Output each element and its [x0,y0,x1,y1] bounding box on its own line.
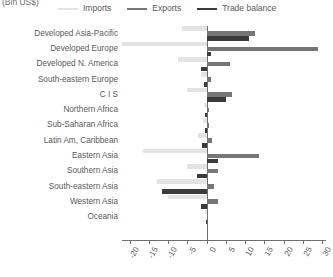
chart-legend: ImportsExportsTrade balance [58,4,276,13]
bar-exports [207,169,219,174]
category-label: South-eastern Europe [38,75,118,84]
bar-group [122,195,326,209]
legend-item-exports[interactable]: Exports [127,4,181,13]
legend-item-imports[interactable]: Imports [58,4,111,13]
bar-trade-balance [205,128,207,133]
value-axis: -20-15-10-5051015202530 [122,240,326,277]
bar-imports [187,164,206,169]
legend-label-trade-balance: Trade balance [222,4,276,13]
bar-imports [187,88,206,93]
category-label: Northern Africa [63,105,118,114]
axis-tick-label: -5 [188,246,198,256]
bar-group [122,103,326,117]
bar-group [122,88,326,102]
axis-tick [284,240,285,244]
category-label: Oceania [88,212,119,221]
bar-trade-balance [205,113,207,118]
bars-region [122,26,326,240]
bar-exports [207,199,219,204]
bar-imports [178,57,207,62]
bar-exports [207,92,232,97]
axis-tick-label: -15 [147,246,160,260]
category-label: South-eastern Asia [49,182,118,191]
bar-imports [203,118,207,123]
bar-trade-balance [201,204,207,209]
legend-swatch-exports [127,8,147,10]
bar-group [122,149,326,163]
bar-exports [207,62,230,67]
axis-tick-label: 25 [302,246,313,258]
bar-exports [207,31,255,36]
axis-line [122,240,326,241]
category-label: Western Asia [70,197,118,206]
bar-exports [207,77,212,82]
axis-tick [303,240,304,244]
axis-tick [245,240,246,244]
axis-tick-label: 20 [283,246,294,258]
bar-trade-balance [162,189,206,194]
category-label: C I S [100,90,118,99]
category-label: Sub-Saharan Africa [47,120,118,129]
category-label: Eastern Asia [72,151,118,160]
axis-tick-label: 30 [322,246,333,258]
bar-trade-balance [204,82,206,87]
legend-label-exports: Exports [152,4,181,13]
bar-exports [207,108,209,113]
bar-trade-balance [207,97,226,102]
bar-group [122,118,326,132]
bar-group [122,210,326,224]
axis-tick-label: 10 [245,246,256,258]
axis-tick [149,240,150,244]
axis-tick [168,240,169,244]
bar-exports [207,138,212,143]
bar-imports [205,210,207,215]
axis-tick [187,240,188,244]
legend-item-trade-balance[interactable]: Trade balance [197,4,276,13]
axis-tick [226,240,227,244]
axis-tick-label: 15 [264,246,275,258]
bar-imports [182,26,207,31]
axis-tick-label: -20 [128,246,141,260]
axis-tick [207,240,208,244]
bar-group [122,179,326,193]
bar-group [122,42,326,56]
bar-imports [201,72,207,77]
bar-imports [157,179,207,184]
category-label: Latin Am, Caribbean [44,136,118,145]
plot-area: Developed Asia-PacificDeveloped EuropeDe… [0,26,326,240]
category-axis-labels: Developed Asia-PacificDeveloped EuropeDe… [0,26,122,240]
bar-imports [198,133,206,138]
bar-group [122,164,326,178]
axis-tick [264,240,265,244]
bar-exports [207,154,259,159]
axis-tick [130,240,131,244]
axis-tick-label: 0 [208,246,217,254]
bar-exports [207,184,215,189]
category-label: Developed Asia-Pacific [34,29,118,38]
category-label: Southern Asia [67,166,118,175]
bar-imports [143,149,207,154]
bar-exports [207,123,210,128]
axis-tick-label: 5 [228,246,237,254]
legend-swatch-trade-balance [197,8,217,10]
bar-trade-balance [207,159,219,164]
bar-imports [204,103,207,108]
bar-exports [207,47,319,52]
bar-group [122,26,326,40]
bar-group [122,133,326,147]
unit-label: (Bln US$) [2,0,39,7]
bar-group [122,57,326,71]
bar-trade-balance [206,220,207,225]
bar-exports [207,215,208,220]
bar-trade-balance [201,67,207,72]
axis-tick [322,240,323,244]
bar-trade-balance [207,36,249,41]
bar-trade-balance [207,52,212,57]
legend-label-imports: Imports [83,4,111,13]
bar-imports [122,42,207,47]
bar-imports [168,195,206,200]
category-label: Developed N. America [37,59,118,68]
bar-trade-balance [197,174,207,179]
bar-trade-balance [202,143,207,148]
